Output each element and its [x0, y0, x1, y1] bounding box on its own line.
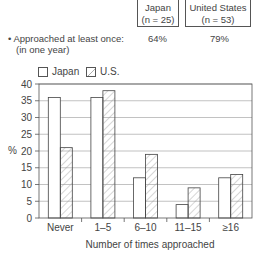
- x-tick-label: 11–15: [175, 222, 203, 233]
- y-tick-label: 20: [21, 146, 33, 157]
- x-tick-label: 1–5: [95, 222, 112, 233]
- bar-us: [103, 91, 115, 218]
- bar-japan: [176, 205, 188, 218]
- x-tick-label: 6–10: [134, 222, 157, 233]
- bar-japan: [48, 97, 60, 218]
- bar-us: [231, 174, 243, 218]
- x-tick-label: ≥16: [222, 222, 239, 233]
- y-tick-label: 25: [21, 129, 33, 140]
- x-axis-label: Number of times approached: [86, 239, 215, 250]
- y-tick-label: 40: [21, 79, 33, 90]
- y-tick-label: 5: [26, 196, 32, 207]
- y-tick-label: 10: [21, 179, 33, 190]
- bar-japan: [134, 178, 146, 218]
- bar-japan: [219, 178, 231, 218]
- y-tick-label: 0: [26, 213, 32, 224]
- bar-us: [146, 154, 158, 218]
- y-axis-label: %: [8, 145, 17, 156]
- y-tick-label: 15: [21, 162, 33, 173]
- bar-chart: 0510152025303540Never1–56–1011–15≥16 % N…: [0, 0, 268, 257]
- bar-japan: [91, 97, 103, 218]
- bar-us: [188, 188, 200, 218]
- x-tick-label: Never: [47, 222, 74, 233]
- y-tick-label: 30: [21, 112, 33, 123]
- y-tick-label: 35: [21, 95, 33, 106]
- bar-us: [60, 148, 72, 218]
